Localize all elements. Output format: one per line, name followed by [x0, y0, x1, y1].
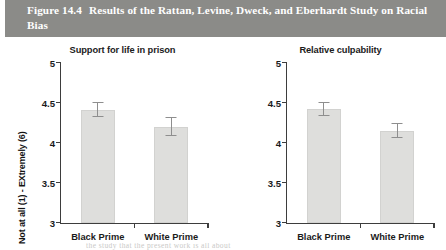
- x-axis-tick-mark: [433, 223, 434, 228]
- chart-title-left: Support for life in prison: [0, 45, 223, 55]
- y-axis-tick-label: 3.5: [268, 178, 281, 189]
- error-bar-cap-top: [318, 102, 329, 103]
- chart-panel-support-for-life-in-prison: Support for life in prison Not at all (1…: [0, 37, 223, 250]
- y-axis-tick-mark: [282, 182, 287, 183]
- bar: [380, 131, 414, 223]
- figure-header-band: Figure 14.4Results of the Rattan, Levine…: [5, 0, 446, 37]
- figure-header-text: Figure 14.4Results of the Rattan, Levine…: [27, 3, 438, 32]
- chart-title-right: Relative culpability: [223, 45, 446, 55]
- y-axis-tick-mark: [56, 62, 61, 63]
- y-axis-tick-label: 5: [276, 58, 281, 69]
- error-bar-cap-top: [166, 117, 177, 118]
- chart-panel-relative-culpability: Relative culpability Juveniles less blam…: [223, 37, 446, 250]
- bar: [307, 109, 341, 223]
- bar: [154, 127, 188, 223]
- y-axis-tick-label: 3: [50, 218, 55, 229]
- x-axis-tick-label: Black Prime: [71, 232, 124, 242]
- error-bar-cap-bottom: [392, 137, 403, 138]
- y-axis-tick-label: 3: [276, 218, 281, 229]
- x-axis-tick-mark: [207, 223, 208, 228]
- error-bar-cap-bottom: [318, 115, 329, 116]
- bar: [81, 110, 115, 223]
- y-axis-tick-label: 4.5: [42, 98, 55, 109]
- charts-container: Support for life in prison Not at all (1…: [0, 37, 446, 250]
- error-bar-cap-bottom: [92, 116, 103, 117]
- error-bar-cap-top: [392, 123, 403, 124]
- y-axis-tick-mark: [56, 222, 61, 223]
- error-bar: [171, 118, 172, 136]
- y-axis-tick-mark: [282, 102, 287, 103]
- x-axis-tick-mark: [360, 223, 361, 228]
- x-axis-tick-mark: [134, 223, 135, 228]
- page-bleed-through: the study that the present work is all a…: [0, 243, 446, 250]
- y-axis-tick-label: 4: [50, 138, 55, 149]
- y-axis-tick-label: 4: [276, 138, 281, 149]
- y-axis-tick-label: 4.5: [268, 98, 281, 109]
- error-bar-cap-top: [92, 102, 103, 103]
- plot-area-left: 33.544.55Black PrimeWhite Prime: [60, 63, 208, 224]
- y-axis-tick-mark: [56, 102, 61, 103]
- x-axis-tick-label: White Prime: [370, 232, 424, 242]
- y-axis-tick-mark: [282, 62, 287, 63]
- y-axis-tick-label: 3.5: [42, 178, 55, 189]
- y-axis-tick-mark: [282, 222, 287, 223]
- y-axis-tick-mark: [56, 142, 61, 143]
- x-axis-tick-label: White Prime: [144, 232, 198, 242]
- error-bar-cap-bottom: [166, 135, 177, 136]
- y-axis-tick-label: 5: [50, 58, 55, 69]
- y-axis-tick-mark: [56, 182, 61, 183]
- figure-number: Figure 14.4: [27, 3, 89, 18]
- y-axis-tick-mark: [282, 142, 287, 143]
- x-axis-tick-label: Black Prime: [297, 232, 350, 242]
- plot-area-right: 33.544.55Black PrimeWhite Prime: [286, 63, 434, 224]
- y-axis-title-left: Not at all (1) - EXtremely (6): [17, 131, 27, 244]
